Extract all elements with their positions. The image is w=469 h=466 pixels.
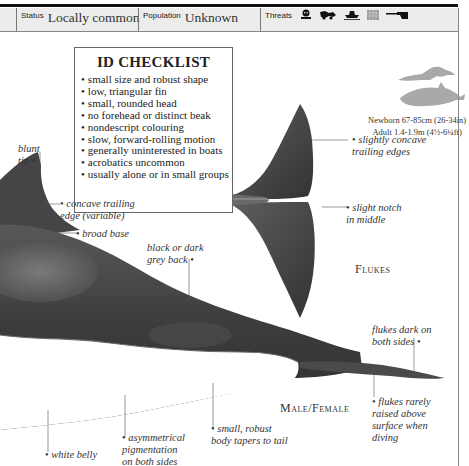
newborn-size: Newborn 67-85cm (26-34in): [368, 114, 466, 126]
flukes-top-view: [228, 104, 315, 318]
status-cell: Status Locally common: [16, 8, 138, 31]
checklist-items: small size and robust shape low, triangu…: [81, 74, 226, 181]
annotation-asymmetrical-pigmentation: • asymmetrical pigmentation on both side…: [122, 432, 185, 466]
boat-collision-icon: [344, 9, 360, 20]
annotation-white-belly: • white belly: [45, 449, 97, 461]
male-female-section-label: Male/Female: [280, 401, 349, 416]
pollution-skull-icon: [300, 9, 312, 20]
porpoise-silhouette: [400, 82, 465, 106]
annotation-notch: • slight notch in middle: [346, 202, 402, 226]
upper-fluke: [230, 104, 313, 199]
fishing-net-icon: [367, 10, 379, 20]
info-bar: Status Locally common Population Unknown…: [0, 8, 458, 32]
annotation-flukes-rarely-raised: • flukes rarely raised above surface whe…: [372, 396, 431, 444]
status-value: Locally common: [48, 10, 140, 25]
threats-cell: Threats: [260, 8, 458, 31]
lower-fluke: [230, 202, 315, 318]
id-checklist-box: ID CHECKLIST small size and robust shape…: [74, 47, 233, 213]
population-label: Population: [143, 11, 181, 20]
population-value: Unknown: [185, 10, 238, 25]
annotation-broad-base: • broad base: [76, 228, 129, 240]
annotation-flukes-trailing-edges: • slightly concave trailing edges: [352, 134, 426, 158]
human-swimmer-silhouette: [398, 67, 455, 81]
annotation-concave-trailing-edge: • concave trailing edge (variable): [60, 198, 135, 222]
status-label: Status: [21, 11, 44, 20]
annotation-back: black or dark grey back •: [147, 242, 204, 266]
annotation-flukes-dark: flukes dark on both sides •: [372, 324, 432, 348]
checklist-item: small, rounded head: [81, 98, 226, 110]
checklist-item: nondescript colouring: [81, 122, 226, 134]
top-rule: [0, 4, 458, 7]
checklist-item: no forehead or distinct beak: [81, 110, 226, 122]
population-cell: Population Unknown: [138, 8, 260, 31]
page-right-border: [458, 8, 459, 466]
gun-icon: [386, 10, 408, 20]
checklist-item: usually alone or in small groups: [81, 169, 226, 181]
threats-label: Threats: [265, 11, 292, 20]
annotation-body-tapers: • small, robust body tapers to tail: [211, 423, 288, 447]
info-bar-spacer: [0, 8, 16, 31]
hunting-harpoon-icon: [319, 9, 337, 20]
checklist-title: ID CHECKLIST: [81, 54, 226, 71]
annotation-blunt-tip: blunt tip •: [18, 143, 40, 167]
size-silhouettes: [398, 67, 465, 107]
flukes-section-label: Flukes: [355, 262, 390, 277]
